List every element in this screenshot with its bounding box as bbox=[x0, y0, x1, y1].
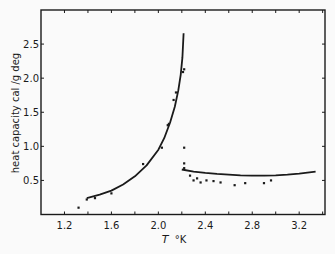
y-tick-label: 2.5 bbox=[23, 39, 39, 50]
x-axis-title: T °K bbox=[162, 233, 187, 246]
y-axis-title: heat capacity cal /g deg bbox=[10, 53, 21, 173]
data-point bbox=[168, 123, 170, 125]
data-point bbox=[263, 182, 265, 184]
data-point bbox=[212, 180, 214, 182]
fit-curve bbox=[182, 170, 316, 176]
y-tick-label: 2.0 bbox=[23, 73, 39, 84]
data-point bbox=[183, 68, 185, 70]
data-point bbox=[234, 184, 236, 186]
y-tick-label: 0.5 bbox=[23, 175, 39, 186]
data-point bbox=[86, 198, 88, 200]
data-point bbox=[244, 182, 246, 184]
x-axis-unit: °K bbox=[175, 234, 187, 245]
x-tick-label: 1.6 bbox=[103, 220, 119, 231]
data-point bbox=[183, 162, 185, 164]
heat-capacity-chart: 1.21.62.02.42.83.20.51.01.52.02.5 heat c… bbox=[0, 0, 335, 254]
x-tick-label: 2.4 bbox=[197, 220, 213, 231]
axis-ticks: 1.21.62.02.42.83.20.51.01.52.02.5 bbox=[23, 10, 325, 231]
data-point bbox=[94, 197, 96, 199]
data-point bbox=[142, 163, 144, 165]
y-tick-label: 1.0 bbox=[23, 141, 39, 152]
fit-curves bbox=[87, 33, 316, 198]
data-point bbox=[183, 167, 185, 169]
data-point bbox=[77, 207, 79, 209]
y-tick-label: 1.5 bbox=[23, 107, 39, 118]
data-point bbox=[219, 181, 221, 183]
x-tick-label: 2.8 bbox=[244, 220, 260, 231]
data-point bbox=[173, 99, 175, 101]
data-point bbox=[200, 181, 202, 183]
x-axis-variable: T bbox=[162, 233, 170, 246]
data-point bbox=[183, 147, 185, 149]
x-tick-label: 1.2 bbox=[57, 220, 73, 231]
x-tick-label: 3.2 bbox=[291, 220, 307, 231]
data-point bbox=[175, 91, 177, 93]
x-tick-label: 2.0 bbox=[150, 220, 166, 231]
data-point bbox=[161, 147, 163, 149]
data-point bbox=[182, 71, 184, 73]
fit-curve bbox=[87, 33, 184, 198]
data-point bbox=[192, 179, 194, 181]
data-point bbox=[110, 192, 112, 194]
data-point bbox=[270, 179, 272, 181]
data-point bbox=[196, 177, 198, 179]
data-points bbox=[77, 68, 272, 209]
data-point bbox=[189, 175, 191, 177]
data-point bbox=[205, 179, 207, 181]
